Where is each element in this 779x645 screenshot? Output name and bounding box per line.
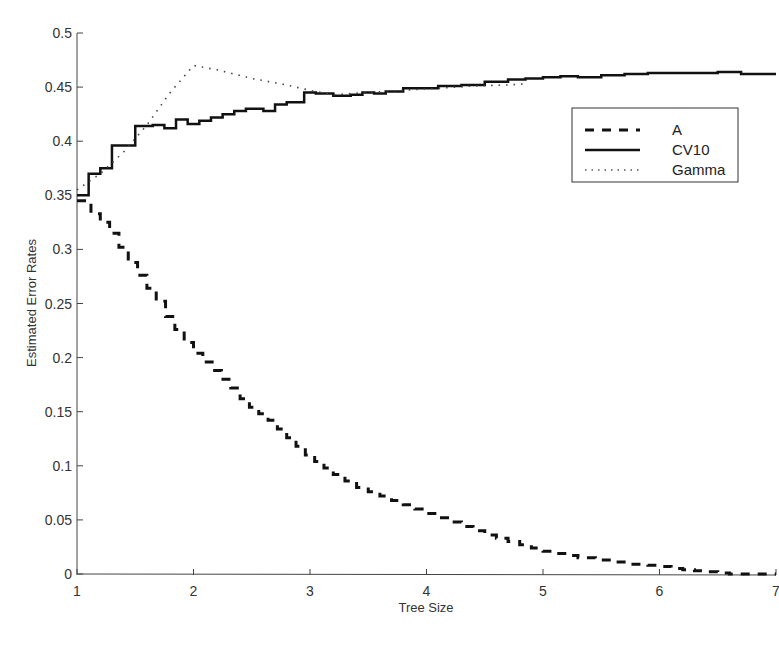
y-tick-label: 0.5 — [53, 25, 73, 41]
x-axis-label: Tree Size — [398, 600, 453, 615]
x-tick-label: 7 — [772, 583, 779, 599]
x-tick-label: 3 — [306, 583, 314, 599]
y-tick-label: 0.1 — [53, 458, 73, 474]
x-tick-label: 1 — [73, 583, 81, 599]
x-tick-label: 4 — [423, 583, 431, 599]
series-a-line — [77, 201, 776, 574]
legend: A CV10 Gamma — [572, 108, 738, 182]
y-tick-label: 0.35 — [45, 187, 72, 203]
legend-label-cv10: CV10 — [672, 141, 710, 158]
x-tick-label: 5 — [539, 583, 547, 599]
y-tick-label: 0.15 — [45, 404, 72, 420]
x-tick-label: 2 — [190, 583, 198, 599]
series-gamma-line — [77, 65, 526, 189]
error-rate-chart: 00.050.10.150.20.250.30.350.40.450.51234… — [0, 0, 779, 645]
y-tick-label: 0.25 — [45, 296, 72, 312]
y-tick-label: 0.2 — [53, 350, 73, 366]
y-tick-label: 0.3 — [53, 241, 73, 257]
legend-label-a: A — [672, 121, 682, 138]
y-tick-label: 0 — [64, 566, 72, 582]
x-tick-label: 6 — [656, 583, 664, 599]
y-tick-label: 0.45 — [45, 79, 72, 95]
y-tick-label: 0.05 — [45, 512, 72, 528]
y-axis-label: Estimated Error Rates — [24, 239, 39, 367]
y-tick-label: 0.4 — [53, 133, 73, 149]
legend-label-gamma: Gamma — [672, 161, 726, 178]
